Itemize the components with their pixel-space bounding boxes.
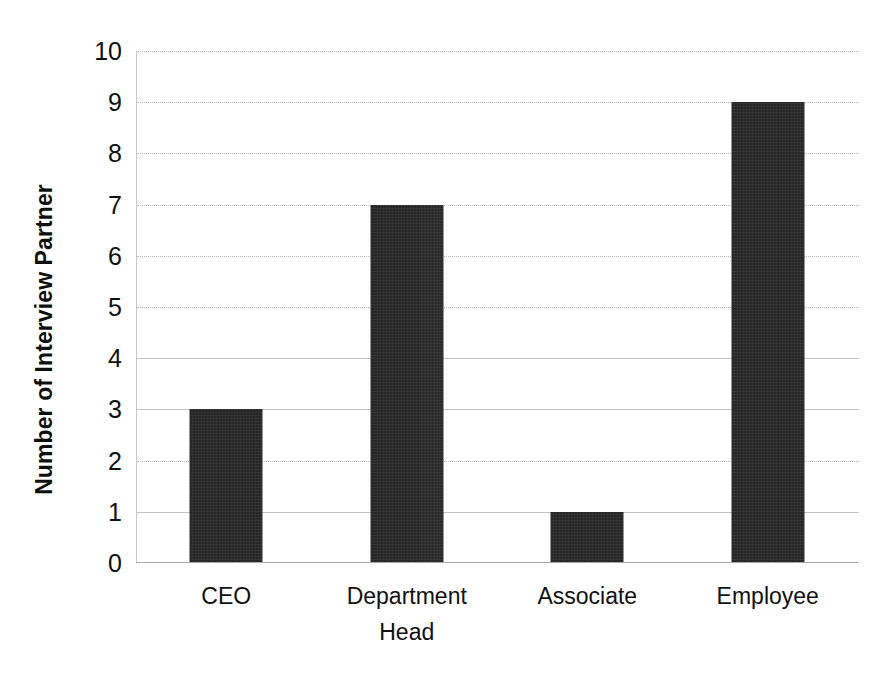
x-axis-tick-labels: CEO Department Head Associate Employee [136, 578, 858, 678]
y-tick-label: 3 [60, 397, 122, 422]
y-tick-label: 4 [60, 346, 122, 371]
y-tick-label: 5 [60, 295, 122, 320]
x-tick-label-department-head: Department Head [317, 578, 498, 650]
x-tick-label-employee: Employee [678, 578, 859, 614]
y-tick-label: 8 [60, 141, 122, 166]
bar-associate[interactable] [551, 512, 624, 563]
bars-layer [136, 51, 858, 563]
y-tick-label: 2 [60, 448, 122, 473]
bar-slot [497, 51, 678, 563]
y-tick-label: 7 [60, 192, 122, 217]
y-tick-label: 10 [60, 39, 122, 64]
y-axis-title-text: Number of Interview Partner [31, 10, 58, 670]
bar-slot [678, 51, 859, 563]
x-tick-label-ceo: CEO [136, 578, 317, 614]
y-axis-tick-labels: 10 9 8 7 6 5 4 3 2 1 0 [60, 51, 122, 563]
y-tick-label: 6 [60, 243, 122, 268]
x-tick-label-associate: Associate [497, 578, 678, 614]
y-axis-title: Number of Interview Partner [0, 0, 60, 682]
y-tick-label: 0 [60, 551, 122, 576]
bar-ceo[interactable] [190, 409, 263, 563]
y-tick-label: 9 [60, 90, 122, 115]
y-tick-label: 1 [60, 499, 122, 524]
bar-chart: Number of Interview Partner 10 9 8 7 6 5… [0, 0, 894, 682]
bar-employee[interactable] [731, 102, 804, 563]
x-axis-line [136, 562, 858, 563]
bar-slot [136, 51, 317, 563]
bar-department-head[interactable] [370, 205, 443, 563]
bar-slot [317, 51, 498, 563]
